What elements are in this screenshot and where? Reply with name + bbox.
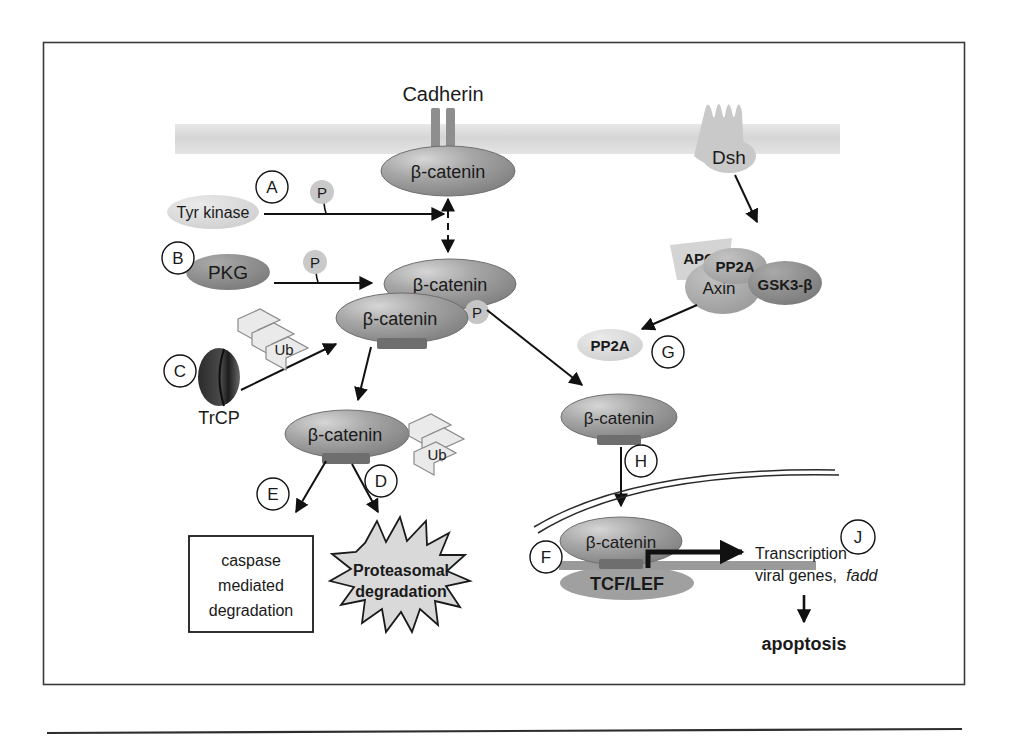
tcf-lef-label: TCF/LEF <box>590 574 664 594</box>
caspase-line-3: degradation <box>209 602 294 619</box>
pkg-label: PKG <box>208 262 248 283</box>
arrow-bcat-to-free-pool <box>487 310 582 385</box>
arrow-bcat-to-caspase <box>296 461 326 512</box>
ubiquitin-chain-bcat: Ub <box>409 414 464 475</box>
transcription-genes-plain: viral genes, <box>755 567 837 584</box>
step-label-f: F <box>530 541 562 573</box>
bcat-binding-site <box>599 559 643 569</box>
step-j-text: J <box>854 528 863 547</box>
tyr-kinase-protein: Tyr kinase <box>167 195 259 229</box>
phospho-marker-a: P <box>310 180 334 204</box>
tcf-lef-protein: TCF/LEF <box>560 566 694 600</box>
bcat-binding-site <box>597 435 641 445</box>
transcription-line-1: Transcription <box>755 545 847 562</box>
pp2a-free-label: PP2A <box>590 337 629 354</box>
beta-catenin-membrane: β-catenin <box>381 146 515 196</box>
dsh-label: Dsh <box>712 147 746 168</box>
step-label-g: G <box>652 336 684 368</box>
trcp-protein <box>198 348 240 406</box>
phospho-marker-b: P <box>303 250 327 274</box>
gsk3b-label: GSK3-β <box>758 276 813 293</box>
step-label-c: C <box>164 355 196 387</box>
beta-catenin-ubiquitinated: β-catenin <box>285 410 409 464</box>
transcription-line-2: viral genes, fadd <box>755 567 879 584</box>
phospho-label: P <box>472 304 482 321</box>
step-d-text: D <box>375 472 387 491</box>
proteasome-line-1: Proteasomal <box>353 562 449 579</box>
step-label-b: B <box>162 242 194 274</box>
beta-catenin-label: β-catenin <box>586 533 656 552</box>
pkg-protein: PKG <box>186 254 270 290</box>
phospho-marker-bcat: P <box>465 300 489 324</box>
beta-catenin-prenuclear: β-catenin <box>561 394 677 445</box>
step-label-h: H <box>625 445 657 477</box>
step-label-a: A <box>256 171 288 203</box>
pp2a-free-protein: PP2A <box>577 329 643 361</box>
step-a-text: A <box>266 178 278 197</box>
proteasomal-degradation-burst: Proteasomal degradation <box>330 517 470 632</box>
cadherin-label: Cadherin <box>402 83 483 105</box>
step-b-text: B <box>172 249 183 268</box>
ubiquitin-chain-trcp: Ub <box>238 309 308 370</box>
phospho-label: P <box>310 254 320 271</box>
step-f-text: F <box>541 548 551 567</box>
ubiquitin-label: Ub <box>427 446 446 463</box>
arrow-dsh-to-complex <box>735 175 757 222</box>
beta-catenin-label: β-catenin <box>411 162 485 182</box>
phospho-label: P <box>317 184 327 201</box>
step-g-text: G <box>661 343 674 362</box>
beta-catenin-cytoplasmic-lower: β-catenin <box>336 293 468 349</box>
proteasome-line-2: degradation <box>355 583 447 600</box>
gsk3b-protein: GSK3-β <box>748 261 822 305</box>
caspase-line-2: mediated <box>218 577 284 594</box>
apoptosis-label: apoptosis <box>761 634 846 654</box>
beta-catenin-label: β-catenin <box>308 425 382 445</box>
step-h-text: H <box>635 452 647 471</box>
pathway-diagram: Cadherin β-catenin Dsh Tyr kinase P A PK… <box>0 0 1009 754</box>
step-label-e: E <box>257 478 289 510</box>
bcat-binding-site <box>377 338 427 349</box>
caspase-line-1: caspase <box>221 552 281 569</box>
step-label-d: D <box>365 465 397 497</box>
step-c-text: C <box>174 362 186 381</box>
pp2a-complex-label: PP2A <box>715 258 754 275</box>
caspase-degradation-box: caspase mediated degradation <box>189 536 313 632</box>
figure-canvas: Cadherin β-catenin Dsh Tyr kinase P A PK… <box>0 0 1009 754</box>
step-e-text: E <box>267 485 278 504</box>
bcat-binding-site <box>322 453 370 464</box>
caption-divider-rule <box>47 729 962 733</box>
beta-catenin-label: β-catenin <box>363 309 437 329</box>
tyr-kinase-label: Tyr kinase <box>177 204 250 221</box>
arrow-bcat-to-ubiquitinated <box>358 347 371 400</box>
beta-catenin-label: β-catenin <box>413 275 487 295</box>
beta-catenin-label: β-catenin <box>584 409 654 428</box>
trcp-label: TrCP <box>198 408 239 428</box>
arrow-complex-to-pp2a <box>642 305 697 329</box>
ubiquitin-label: Ub <box>274 341 293 358</box>
transcription-genes-italic: fadd <box>846 567 878 584</box>
